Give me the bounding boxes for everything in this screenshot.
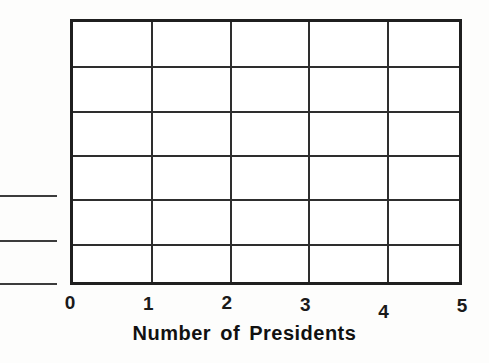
x-tick-label-3: 3: [300, 294, 311, 316]
grid-row-line: [73, 199, 459, 201]
chart-page: 012345 Number of Presidents: [0, 0, 489, 363]
left-edge-rule-1: [0, 195, 57, 197]
grid-row-line: [73, 244, 459, 246]
grid-column-line: [387, 22, 389, 282]
x-tick-label-1: 1: [143, 293, 154, 315]
grid-column-line: [151, 22, 153, 282]
plot-frame: [70, 19, 462, 285]
grid-lines: [73, 22, 459, 282]
x-axis-title: Number of Presidents: [0, 322, 489, 345]
grid-row-line: [73, 66, 459, 68]
x-tick-label-4: 4: [378, 301, 389, 323]
left-edge-rule-2: [0, 240, 57, 242]
grid-column-line: [308, 22, 310, 282]
x-tick-label-0: 0: [65, 292, 76, 314]
grid-row-line: [73, 155, 459, 157]
left-edge-rule-3: [0, 283, 57, 285]
grid-column-line: [230, 22, 232, 282]
grid-row-line: [73, 111, 459, 113]
x-tick-label-2: 2: [222, 292, 233, 314]
x-tick-label-5: 5: [457, 295, 468, 317]
